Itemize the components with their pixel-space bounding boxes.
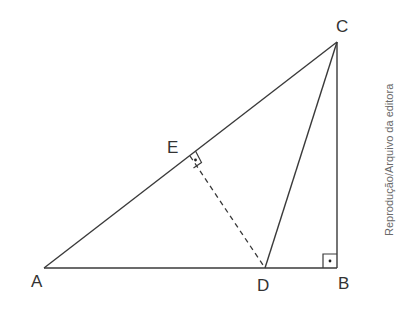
segment-cd <box>265 42 337 268</box>
label-e: E <box>167 138 178 157</box>
label-a: A <box>31 272 43 291</box>
image-credit: Reprodução/Arquivo da editora <box>383 83 395 236</box>
label-c: C <box>336 17 348 36</box>
segment-de-dashed <box>190 156 265 268</box>
label-b: B <box>338 274 349 293</box>
label-d: D <box>257 276 269 295</box>
right-angle-marker-b <box>323 254 337 268</box>
right-angle-marker-e <box>194 151 202 168</box>
triangle-diagram: A B C D E Reprodução/Arquivo da editora <box>0 0 413 312</box>
segment-ac <box>44 42 337 268</box>
